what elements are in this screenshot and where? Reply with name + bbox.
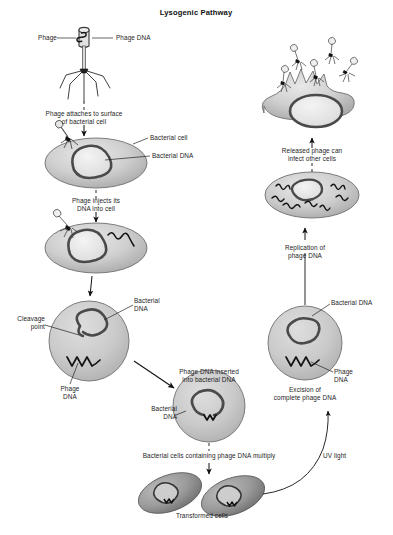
label-phage-dna-right: Phage DNA [334, 368, 353, 383]
label-phage: Phage [38, 34, 57, 42]
label-bacterial-dna-2: Bacterial DNA [134, 297, 160, 312]
label-uv-light: UV light [323, 452, 346, 460]
bacterial-cell-excision [268, 304, 342, 380]
step-phage-dna-inserted: Phage DNA inserted into bacterial DNA [179, 368, 239, 383]
lysed-cell-releasing-phage [262, 37, 357, 127]
lysogenic-pathway-figure: Lysogenic Pathway Phage Phage DNA Phage … [0, 0, 393, 535]
step-phage-injects: Phage injects its DNA into cell [72, 197, 120, 212]
step-excision: Excision of complete phage DNA [274, 386, 337, 401]
bacterial-cell-with-attached-phage [45, 120, 150, 188]
label-cleavage-point: Cleavage point [17, 315, 45, 330]
bacterial-cell-phage-replication [265, 172, 359, 218]
step-phage-attaches: Phage attaches to surface of bacterial c… [46, 110, 123, 125]
label-bacterial-cell: Bacterial cell [150, 134, 188, 142]
step-replication: Replication of phage DNA [285, 244, 325, 259]
label-bacterial-dna-right: Bacterial DNA [331, 299, 372, 307]
bacterial-cell-cleavage [45, 301, 133, 384]
step-cells-multiply: Bacterial cells containing phage DNA mul… [143, 452, 276, 460]
label-bacterial-dna: Bacterial DNA [152, 152, 193, 160]
label-transformed-cells: Transformed cells [176, 512, 228, 520]
label-bacterial-dna-3: Bacterial DNA [151, 405, 177, 420]
page-title: Lysogenic Pathway [160, 8, 233, 17]
phage-virion [57, 27, 113, 101]
label-phage-dna-top: Phage DNA [116, 34, 151, 42]
label-phage-dna-left: Phage DNA [61, 385, 80, 400]
step-released-phage: Released phage can infect other cells [282, 147, 342, 162]
